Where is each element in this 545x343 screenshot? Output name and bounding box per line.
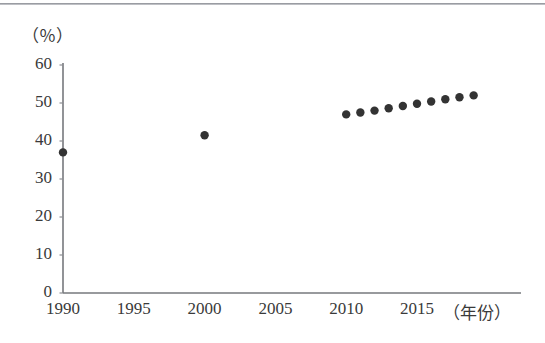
data-point-marker	[427, 97, 435, 105]
x-tick-label: 1990	[37, 299, 89, 319]
data-point-marker	[200, 131, 208, 139]
data-point-marker	[384, 104, 392, 112]
y-tick-label: 60	[8, 54, 52, 74]
x-axis-title-label: （年份）	[443, 299, 511, 324]
chart-figure: 0102030405060 199019952000200520102015 （…	[0, 0, 545, 343]
x-tick-label: 2000	[179, 299, 231, 319]
data-point-markers	[59, 91, 478, 156]
data-point-marker	[399, 102, 407, 110]
y-tick-label: 10	[8, 244, 52, 264]
y-tick-label: 40	[8, 130, 52, 150]
y-tick-label: 50	[8, 92, 52, 112]
x-tick-label: 1995	[108, 299, 160, 319]
y-tick-label: 20	[8, 206, 52, 226]
x-tick-label: 2005	[249, 299, 301, 319]
data-point-marker	[455, 93, 463, 101]
x-tick-label: 2015	[391, 299, 443, 319]
axes-group	[63, 63, 521, 293]
data-point-marker	[413, 100, 421, 108]
scatter-plot-area: 0102030405060 199019952000200520102015 （…	[0, 0, 545, 343]
data-point-marker	[370, 106, 378, 114]
y-tick-label: 30	[8, 168, 52, 188]
data-point-marker	[441, 95, 449, 103]
x-tick-label: 2010	[320, 299, 372, 319]
data-point-marker	[356, 108, 364, 116]
chart-canvas	[0, 0, 545, 343]
data-point-marker	[342, 110, 350, 118]
data-point-marker	[59, 148, 67, 156]
data-point-marker	[469, 91, 477, 99]
y-axis-unit-label: （％）	[22, 22, 73, 47]
